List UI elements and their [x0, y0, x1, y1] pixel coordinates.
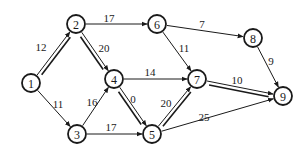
network-diagram: 1211172016171402025117109 123456789 [0, 0, 307, 155]
node-label: 8 [250, 32, 256, 46]
edge-weight-label: 0 [130, 93, 136, 105]
node-label: 1 [28, 77, 34, 91]
edge-8-9 [258, 47, 279, 87]
node-6: 6 [148, 15, 166, 33]
node-label: 6 [154, 18, 160, 32]
edge-5-9 [162, 99, 274, 131]
edge-6-8 [167, 25, 243, 36]
node-3: 3 [68, 125, 86, 143]
critical-path-line [209, 85, 269, 97]
node-label: 3 [74, 128, 80, 142]
node-label: 7 [194, 73, 200, 87]
edge-weight-label: 14 [145, 66, 157, 78]
node-label: 5 [149, 128, 155, 142]
edge-weight-label: 11 [179, 42, 190, 54]
edge-weight-label: 7 [199, 18, 205, 30]
edge-weight-label: 11 [53, 98, 64, 110]
network-diagram-svg: 1211172016171402025117109 123456789 [0, 0, 307, 155]
node-9: 9 [274, 87, 292, 105]
edge-weight-label: 16 [87, 96, 99, 108]
node-2: 2 [67, 15, 85, 33]
edge-arrow [258, 47, 279, 87]
edge-arrow [162, 99, 274, 131]
edge-weight-label: 12 [36, 41, 47, 53]
node-5: 5 [143, 125, 161, 143]
edge-1-2 [37, 32, 70, 75]
node-4: 4 [105, 70, 123, 88]
edge-weight-label: 17 [104, 12, 116, 24]
edge-weight-label: 20 [161, 97, 173, 109]
node-1: 1 [22, 74, 40, 92]
edge-weight-label: 25 [199, 111, 211, 123]
node-8: 8 [244, 29, 262, 47]
edge-weight-label: 9 [268, 55, 274, 67]
edge-weight-label: 17 [106, 121, 118, 133]
edge-arrow [167, 25, 243, 36]
edge-weight-label: 20 [99, 42, 111, 54]
node-7: 7 [188, 70, 206, 88]
edge-weight-label: 10 [232, 74, 244, 86]
node-label: 4 [111, 73, 117, 87]
node-label: 2 [73, 18, 79, 32]
node-label: 9 [280, 90, 286, 104]
edge-arrow [37, 32, 70, 75]
